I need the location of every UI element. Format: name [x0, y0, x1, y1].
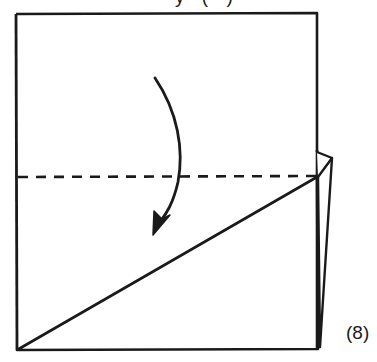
fold-arrow-curve — [155, 78, 180, 222]
step-number-label: (8) — [346, 322, 369, 344]
paper-square-outline — [16, 13, 318, 350]
fold-arrow-head-icon — [153, 211, 170, 235]
origami-diagram — [0, 0, 377, 362]
side-flap-top — [317, 152, 332, 177]
fold-line-dashed — [18, 176, 316, 177]
paper-left-edge — [16, 14, 17, 350]
side-flap-long — [318, 158, 332, 347]
